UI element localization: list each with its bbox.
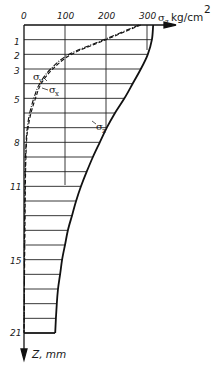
y-tick-21: 21 [10,328,21,338]
y-tick-15: 15 [10,256,22,266]
label-sigma-y-sub: y [38,77,43,85]
x-tick-200: 200 [98,11,115,21]
x-axis-title: kg/cm [171,11,203,23]
leader-sigma-x [42,88,48,90]
y-axis-title: Z, mm [31,348,66,360]
x-tick-100: 100 [57,11,74,21]
y-tick-8: 8 [14,138,20,148]
y-tick-3: 3 [14,66,20,76]
curve-sigma-x [24,25,141,333]
stress-depth-chart: 0 100 200 300 σ z kg/cm 2 1 2 3 5 8 11 1… [0,0,212,366]
y-tick-2: 2 [14,51,20,61]
curve-sigma-z [55,25,153,333]
axes [21,22,176,360]
vertical-grid [65,25,147,185]
x-axis-sigma-sub: z [165,18,169,26]
x-axis-title-sup: 2 [204,3,211,15]
label-sigma-z-sub: z [102,127,106,135]
label-sigma-x-sub: x [55,90,59,98]
x-tick-0: 0 [21,11,27,21]
y-tick-1: 1 [14,37,20,47]
x-axis-sigma: σ [158,12,165,23]
y-tick-11: 11 [10,182,21,192]
curve-sigma-y [24,25,139,333]
x-tick-300: 300 [139,11,156,21]
y-tick-5: 5 [14,95,20,105]
y-axis-arrow-icon [21,349,27,360]
leader-sigma-y [44,78,47,81]
